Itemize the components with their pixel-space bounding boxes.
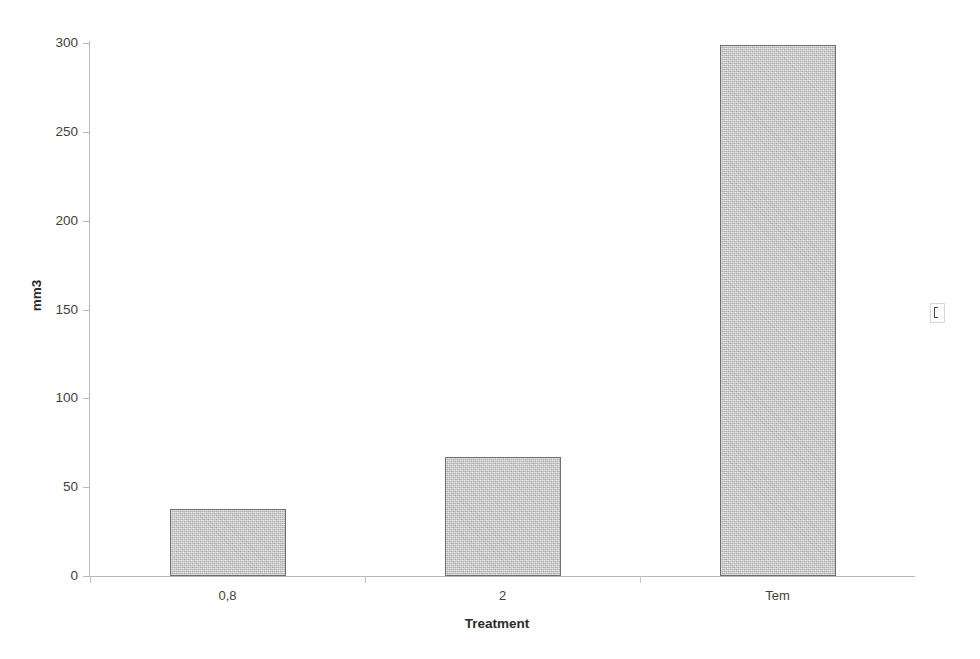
y-tick-mark (83, 487, 90, 488)
y-tick-mark (83, 398, 90, 399)
y-tick-label: 50 (34, 480, 78, 494)
y-tick-label: 300 (34, 36, 78, 50)
y-tick-label-wrap: 100 (30, 391, 78, 405)
bar-chart-figure: 050100150200250300 0,82Tem mm3 Treatment (0, 0, 980, 659)
x-axis-title: Treatment (417, 616, 577, 631)
y-tick-label-wrap: 50 (30, 480, 78, 494)
y-tick-mark (83, 310, 90, 311)
x-tick-label: 2 (423, 589, 583, 603)
y-tick-label-wrap: 300 (30, 36, 78, 50)
bar (720, 45, 836, 576)
x-tick-mark (640, 576, 641, 583)
y-tick-label-wrap: 250 (30, 125, 78, 139)
y-axis-title: mm3 (29, 274, 44, 318)
y-tick-label-wrap: 200 (30, 214, 78, 228)
y-tick-mark (83, 132, 90, 133)
y-tick-label: 0 (34, 569, 78, 583)
x-tick-label: 0,8 (148, 589, 308, 603)
x-tick-mark (90, 576, 91, 583)
y-tick-mark (83, 43, 90, 44)
x-tick-mark (365, 576, 366, 583)
x-axis-line (84, 576, 915, 577)
plot-area (90, 43, 915, 576)
y-tick-mark (83, 221, 90, 222)
x-tick-label: Tem (698, 589, 858, 603)
y-tick-label: 250 (34, 125, 78, 139)
scan-artifact-legend-fragment (930, 303, 945, 323)
y-tick-mark (83, 576, 90, 577)
bar (170, 509, 286, 577)
y-tick-label: 100 (34, 391, 78, 405)
bar (445, 457, 561, 576)
y-tick-label: 200 (34, 214, 78, 228)
y-tick-label-wrap: 0 (30, 569, 78, 583)
